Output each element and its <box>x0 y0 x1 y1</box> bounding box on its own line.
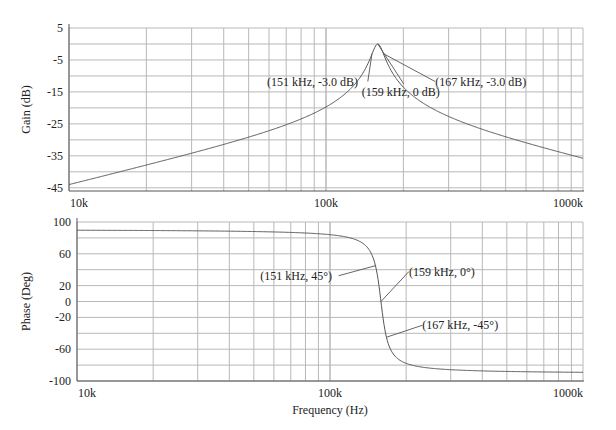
gain-panel: 5-5-15-25-35-4510k100k1000kGain (dB)(151… <box>19 21 584 210</box>
x-tick-label: 10k <box>78 386 96 400</box>
y-tick-label: 0 <box>65 295 71 309</box>
annotation-label: (151 kHz, 45°) <box>260 269 332 283</box>
x-tick-label: 100k <box>314 196 338 210</box>
annotation-leader <box>386 325 422 337</box>
x-tick-label: 1000k <box>553 196 583 210</box>
x-axis-label: Frequency (Hz) <box>292 403 368 417</box>
y-tick-label: -25 <box>47 117 63 131</box>
y-tick-label: -35 <box>47 149 63 163</box>
y-axis-label: Gain (dB) <box>19 85 33 133</box>
annotation-leader <box>378 44 404 84</box>
y-tick-label: 100 <box>53 215 71 229</box>
phase-panel: 10060200-20-60-10010k100k1000kPhase (Deg… <box>19 215 584 417</box>
y-tick-label: -100 <box>49 374 71 388</box>
x-tick-label: 10k <box>70 196 88 210</box>
y-tick-label: -20 <box>55 310 71 324</box>
annotation-label: (167 kHz, -3.0 dB) <box>435 75 526 89</box>
annotation-label: (159 kHz, 0°) <box>409 265 475 279</box>
annotation-leader <box>383 54 435 82</box>
y-axis-label: Phase (Deg) <box>19 272 33 331</box>
annotation-leader <box>368 54 372 82</box>
annotation-leader <box>339 266 376 276</box>
annotation-label: (167 kHz, -45°) <box>422 318 498 332</box>
bode-plot: 5-5-15-25-35-4510k100k1000kGain (dB)(151… <box>0 0 616 430</box>
y-tick-label: 20 <box>59 279 71 293</box>
annotation-label: (159 kHz, 0 dB) <box>362 85 440 99</box>
annotation-label: (151 kHz, -3.0 dB) <box>267 75 358 89</box>
y-tick-label: 5 <box>57 21 63 35</box>
x-tick-label: 100k <box>318 386 342 400</box>
y-tick-label: -5 <box>53 53 63 67</box>
y-tick-label: 60 <box>59 247 71 261</box>
y-tick-label: -45 <box>47 181 63 195</box>
annotation-leader <box>381 272 409 302</box>
y-tick-label: -15 <box>47 85 63 99</box>
x-tick-label: 1000k <box>553 386 583 400</box>
y-tick-label: -60 <box>55 342 71 356</box>
